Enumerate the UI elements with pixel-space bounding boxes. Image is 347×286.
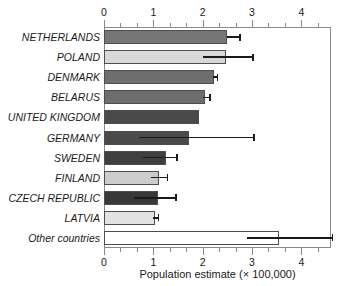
- category-label-other-countries: Other countries: [0, 232, 100, 244]
- x-tick-minor: [186, 23, 187, 27]
- bar-denmark: [104, 70, 214, 84]
- x-tick-minor: [318, 23, 319, 27]
- x-tick-minor: [318, 248, 319, 252]
- category-label-czech-republic: CZECH REPUBLIC: [0, 192, 100, 204]
- x-tick-minor: [120, 23, 121, 27]
- bar-latvia: [104, 211, 155, 225]
- x-tick-label-bottom-4: 4: [291, 256, 311, 268]
- x-tick-minor: [170, 248, 171, 252]
- error-bar-cap-poland: [252, 54, 254, 61]
- x-tick-minor: [285, 248, 286, 252]
- x-tick-minor: [137, 248, 138, 252]
- category-label-belarus: BELARUS: [0, 91, 100, 103]
- x-tick-major-4: [301, 248, 302, 255]
- x-tick-minor: [285, 23, 286, 27]
- x-tick-label-bottom-3: 3: [242, 256, 262, 268]
- error-bar-line-germany: [139, 137, 255, 139]
- error-bar-cap-netherlands: [239, 34, 241, 41]
- category-label-latvia: LATVIA: [0, 212, 100, 224]
- bar-netherlands: [104, 30, 227, 44]
- x-tick-minor: [120, 248, 121, 252]
- x-tick-label-bottom-0: 0: [94, 256, 114, 268]
- x-tick-minor: [219, 248, 220, 252]
- population-estimate-bar-chart: 0011223344 NETHERLANDSPOLANDDENMARKBELAR…: [0, 0, 347, 286]
- x-tick-label-top-2: 2: [193, 6, 213, 18]
- x-tick-major-0: [104, 20, 105, 27]
- x-tick-minor: [137, 23, 138, 27]
- x-tick-major-4: [301, 20, 302, 27]
- x-tick-minor: [268, 23, 269, 27]
- x-tick-minor: [268, 248, 269, 252]
- x-tick-label-top-0: 0: [94, 6, 114, 18]
- x-tick-minor: [219, 23, 220, 27]
- x-tick-minor: [170, 23, 171, 27]
- x-tick-minor: [186, 248, 187, 252]
- x-tick-label-bottom-1: 1: [143, 256, 163, 268]
- bar-united-kingdom: [104, 110, 199, 124]
- category-label-united-kingdom: UNITED KINGDOM: [0, 111, 100, 123]
- error-bar-line-czech-republic: [134, 197, 177, 199]
- x-tick-label-top-1: 1: [143, 6, 163, 18]
- x-tick-major-2: [203, 20, 204, 27]
- category-label-netherlands: NETHERLANDS: [0, 31, 100, 43]
- error-bar-cap-finland: [167, 174, 169, 181]
- error-bar-cap-other-countries: [332, 234, 334, 241]
- error-bar-cap-belarus: [209, 94, 211, 101]
- category-label-finland: FINLAND: [0, 172, 100, 184]
- x-tick-minor: [236, 23, 237, 27]
- error-bar-line-other-countries: [247, 237, 333, 239]
- bar-belarus: [104, 90, 205, 104]
- error-bar-cap-sweden: [176, 154, 178, 161]
- category-label-poland: POLAND: [0, 51, 100, 63]
- error-bar-line-finland: [151, 177, 168, 179]
- x-tick-major-1: [153, 248, 154, 255]
- category-label-denmark: DENMARK: [0, 71, 100, 83]
- error-bar-cap-germany: [253, 134, 255, 141]
- x-tick-label-bottom-2: 2: [193, 256, 213, 268]
- x-tick-major-3: [252, 248, 253, 255]
- category-label-sweden: SWEDEN: [0, 152, 100, 164]
- error-bar-line-poland: [203, 56, 254, 58]
- x-tick-major-1: [153, 20, 154, 27]
- x-tick-minor: [236, 248, 237, 252]
- x-tick-label-top-4: 4: [291, 6, 311, 18]
- x-tick-major-2: [203, 248, 204, 255]
- x-tick-major-0: [104, 248, 105, 255]
- x-axis-title: Population estimate (× 100,000): [104, 268, 331, 280]
- category-label-germany: GERMANY: [0, 132, 100, 144]
- error-bar-line-sweden: [143, 157, 178, 159]
- x-tick-major-3: [252, 20, 253, 27]
- error-bar-cap-latvia: [158, 214, 160, 221]
- x-tick-label-top-3: 3: [242, 6, 262, 18]
- error-bar-cap-czech-republic: [175, 194, 177, 201]
- error-bar-cap-denmark: [217, 74, 219, 81]
